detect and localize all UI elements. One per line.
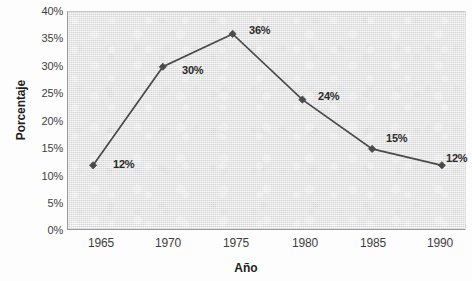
x-axis-tick-label: 1975 <box>206 236 266 250</box>
y-axis-tick-label: 15% <box>22 142 63 154</box>
y-axis-tick-label: 20% <box>22 115 63 127</box>
y-axis-tick-label: 35% <box>22 32 63 44</box>
data-point-label: 36% <box>249 24 270 36</box>
y-axis-tick-label: 40% <box>22 5 63 17</box>
data-point-markers <box>90 30 446 169</box>
x-axis-tick-label: 1985 <box>343 236 403 250</box>
line-chart-figure: Porcentaje 40% 35% 30% 25% 20% 15% 10% 5… <box>0 0 472 281</box>
x-axis-title: Año <box>206 261 286 275</box>
y-axis-tick-label: 25% <box>22 87 63 99</box>
x-axis-tick-label: 1970 <box>138 236 198 250</box>
y-axis-title: Porcentaje <box>14 70 28 150</box>
series-canvas <box>68 12 467 231</box>
y-axis-tick-label: 5% <box>22 197 63 209</box>
y-axis-tick-label: 10% <box>22 170 63 182</box>
data-point-label: 15% <box>386 132 407 144</box>
data-series-line <box>93 34 442 165</box>
data-point-marker <box>438 162 445 169</box>
x-axis-tick-label: 1980 <box>275 236 335 250</box>
plot-area <box>67 11 466 230</box>
data-point-label: 24% <box>318 90 339 102</box>
y-axis-tick-label: 0% <box>22 224 63 236</box>
x-axis-tick-label: 1965 <box>71 236 131 250</box>
y-axis-tick-label: 30% <box>22 60 63 72</box>
data-point-label: 30% <box>182 64 203 76</box>
data-point-label: 12% <box>113 158 134 170</box>
data-point-label: 12% <box>446 152 467 164</box>
x-axis-tick-label: 1990 <box>410 236 470 250</box>
